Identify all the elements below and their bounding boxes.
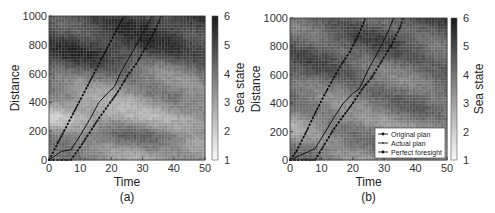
y-tick-label: 0	[41, 154, 47, 166]
chart-b: 0102030405002004006008001000TimeDistance…	[248, 0, 495, 213]
x-axis-label: Time	[355, 175, 382, 189]
colorbar-tick-label: 4	[224, 68, 230, 80]
y-axis-label: Distance	[249, 65, 263, 112]
x-tick-label: 30	[378, 162, 390, 174]
colorbar-tick-label: 5	[224, 39, 230, 51]
legend: Original planActual planPerfect foresigh…	[375, 128, 445, 158]
colorbar-tick-label: 6	[224, 10, 230, 22]
y-axis: 02004006008001000	[23, 10, 52, 166]
y-axis-label: Distance	[8, 64, 22, 111]
x-tick-label: 20	[105, 162, 117, 174]
x-tick-label: 30	[136, 162, 148, 174]
colorbar-tick-label: 1	[463, 154, 469, 166]
colorbar-tick-label: 2	[224, 125, 230, 137]
panel-b: 0102030405002004006008001000TimeDistance…	[248, 0, 495, 213]
panel-caption: (b)	[361, 190, 376, 204]
y-tick-label: 400	[270, 97, 288, 109]
y-tick-label: 1000	[23, 10, 47, 22]
y-tick-label: 600	[270, 69, 288, 81]
x-tick-label: 10	[315, 162, 327, 174]
colorbar-tick-label: 4	[463, 69, 469, 81]
panel-caption: (a)	[120, 190, 135, 204]
x-axis-label: Time	[114, 175, 141, 189]
x-tick-label: 50	[441, 162, 453, 174]
colorbar: 123456Sea state	[212, 10, 247, 166]
colorbar-tick-label: 3	[224, 96, 230, 108]
y-tick-label: 200	[270, 126, 288, 138]
y-tick-label: 800	[29, 39, 47, 51]
x-tick-label: 40	[168, 162, 180, 174]
x-tick-label: 10	[74, 162, 86, 174]
colorbar: 123456Sea state	[451, 12, 486, 166]
panel-a: 0102030405002004006008001000TimeDistance…	[0, 0, 248, 213]
y-tick-label: 0	[282, 154, 288, 166]
legend-entry-original-plan: Original plan	[391, 131, 430, 139]
x-tick-label: 20	[347, 162, 359, 174]
legend-entry-actual-plan: Actual plan	[391, 140, 426, 148]
colorbar-label: Sea state	[233, 62, 247, 113]
colorbar-tick-label: 2	[463, 126, 469, 138]
colorbar-tick-label: 3	[463, 97, 469, 109]
y-tick-label: 400	[29, 96, 47, 108]
colorbar-tick-label: 6	[463, 12, 469, 24]
colorbar-tick-label: 5	[463, 40, 469, 52]
colorbar-tick-label: 1	[224, 154, 230, 166]
colorbar-label: Sea state	[472, 63, 486, 114]
x-tick-label: 50	[199, 162, 211, 174]
chart-a: 0102030405002004006008001000TimeDistance…	[0, 0, 248, 213]
y-tick-label: 800	[270, 40, 288, 52]
y-tick-label: 200	[29, 125, 47, 137]
y-tick-label: 1000	[264, 12, 288, 24]
y-axis: 02004006008001000	[264, 12, 293, 166]
x-tick-label: 40	[409, 162, 421, 174]
legend-entry-perfect-foresight: Perfect foresight	[391, 149, 442, 157]
y-tick-label: 600	[29, 68, 47, 80]
